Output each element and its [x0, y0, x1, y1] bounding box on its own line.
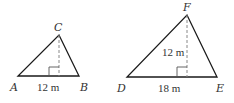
triangle-abc-right-angle-marker	[49, 67, 59, 76]
vertex-label-b: B	[79, 81, 88, 94]
vertex-label-f: F	[182, 1, 191, 14]
triangle-abc: C A B 12 m	[9, 21, 88, 94]
triangle-def-height-measure: 12 m	[162, 46, 185, 58]
vertex-label-c: C	[54, 21, 63, 34]
triangle-abc-base-measure: 12 m	[37, 81, 60, 93]
triangles-diagram: C A B 12 m 12 m F D E 18 m	[0, 0, 234, 103]
vertex-label-a: A	[9, 81, 18, 94]
triangle-abc-outline	[18, 35, 79, 76]
triangle-def-base-measure: 18 m	[158, 82, 181, 94]
triangle-def: 12 m F D E 18 m	[116, 1, 224, 95]
vertex-label-e: E	[215, 82, 224, 95]
vertex-label-d: D	[116, 82, 126, 95]
triangle-def-right-angle-marker	[177, 67, 187, 77]
